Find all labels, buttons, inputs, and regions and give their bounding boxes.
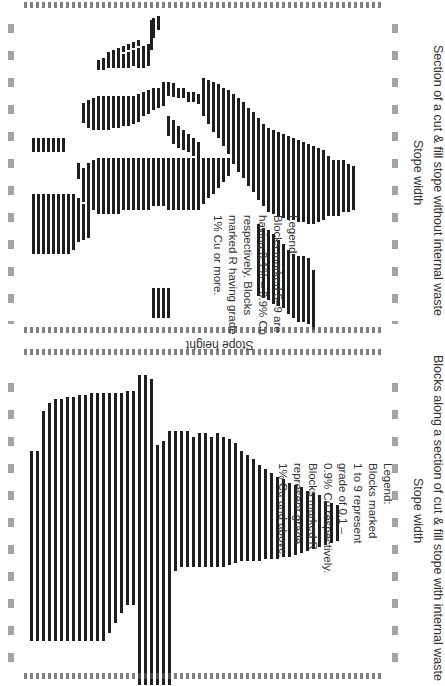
legend-title: Legend:	[285, 215, 300, 335]
x-tick-labels-right	[392, 24, 398, 324]
legend-line: Blocks marked	[365, 463, 380, 573]
legend-line: 0.9% Cu respectively.	[320, 463, 335, 573]
legend-line: Blocks marked 5–9 are	[270, 215, 285, 335]
row-tick-labels-bottom	[24, 673, 384, 679]
legend-line: 1% Cu or more.	[210, 215, 225, 335]
x-axis-title-top: Stope width	[411, 140, 425, 205]
legend-line: 1% Cu and above.	[275, 463, 290, 573]
legend-line: marked R having grade	[225, 215, 240, 335]
row-tick-labels-top	[24, 349, 384, 355]
row-tick-labels-bottom	[24, 327, 384, 333]
chart-panel-with-waste: Legend: Blocks marked 1 to 9 represent g…	[0, 343, 445, 686]
legend-line: grade of 0.1 –	[335, 463, 350, 573]
legend-line: having 0.1% – 0.9% Cu	[255, 215, 270, 335]
legend-line: 1 to 9 represent	[350, 463, 365, 573]
x-tick-labels-left	[8, 24, 14, 324]
x-tick-labels-left	[8, 383, 14, 673]
row-tick-labels-top	[24, 2, 384, 8]
caption-top: Section of a cut & fill stope without in…	[431, 45, 445, 316]
block-plot-top	[22, 8, 382, 326]
legend-top: Legend: Blocks marked 5–9 are having 0.1…	[210, 215, 300, 335]
legend-line: respectively. Blocks	[240, 215, 255, 335]
caption-bottom: Blocks along a section of cut & fill sto…	[431, 355, 445, 681]
legend-title: Legend:	[380, 463, 395, 573]
legend-bottom: Legend: Blocks marked 1 to 9 represent g…	[275, 463, 395, 573]
chart-panel-without-waste: Legend: Blocks marked 5–9 are having 0.1…	[0, 0, 445, 343]
legend-line: Blocks marked R	[305, 463, 320, 573]
legend-line: represent grade	[290, 463, 305, 573]
x-axis-title-bottom: Stope width	[411, 478, 425, 543]
